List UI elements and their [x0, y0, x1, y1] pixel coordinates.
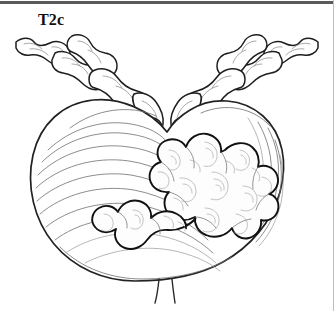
urethra-stump	[155, 279, 175, 303]
anatomy-illustration	[0, 0, 334, 311]
figure-container: T2c	[0, 0, 334, 311]
